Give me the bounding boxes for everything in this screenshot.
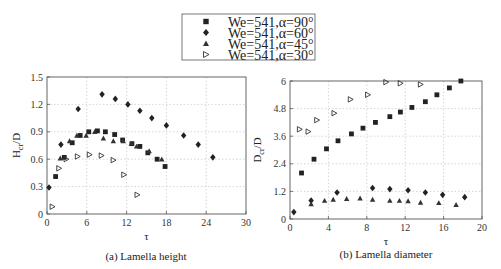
y-tick-label: 0 bbox=[38, 209, 43, 220]
y-tick-label: 0.6 bbox=[31, 154, 44, 165]
diamond-marker-icon bbox=[137, 107, 142, 114]
y-axis-label: Dcr/D bbox=[251, 137, 266, 162]
square-marker-icon bbox=[410, 105, 415, 110]
triangle-up-marker-icon bbox=[405, 198, 410, 203]
diamond-marker-icon bbox=[113, 96, 118, 103]
x-tick-label: 18 bbox=[161, 217, 171, 228]
triangle-up-marker-icon bbox=[344, 196, 349, 201]
triangle-right-marker-icon bbox=[418, 82, 423, 87]
triangle-right-marker-icon bbox=[315, 117, 320, 122]
x-tick-label: 30 bbox=[241, 217, 251, 228]
series-diamond bbox=[291, 185, 467, 216]
triangle-right-marker-icon bbox=[87, 152, 92, 157]
triangle-right-marker-icon bbox=[75, 154, 80, 159]
triangle-up-marker-icon bbox=[453, 202, 458, 207]
legend: We=541,α=90°We=541,α=60°We=541,α=45°We=5… bbox=[182, 14, 315, 63]
square-marker-icon bbox=[447, 86, 452, 91]
square-marker-icon bbox=[361, 126, 366, 131]
series-triangle-right bbox=[297, 79, 423, 134]
x-tick-label: 16 bbox=[439, 222, 449, 233]
x-tick-label: 8 bbox=[364, 222, 369, 233]
diamond-marker-icon bbox=[99, 91, 104, 98]
y-tick-label: 1.2 bbox=[274, 186, 287, 197]
diamond-marker-icon bbox=[75, 106, 80, 113]
triangle-right-marker-icon bbox=[57, 166, 62, 171]
plot-frame bbox=[290, 81, 482, 219]
diamond-marker-icon bbox=[291, 209, 296, 216]
triangle-right-marker-icon bbox=[306, 129, 311, 134]
triangle-right-marker-icon bbox=[122, 172, 127, 177]
triangle-right-marker-icon bbox=[297, 127, 302, 132]
triangle-up-marker-icon bbox=[357, 196, 362, 201]
x-tick-label: 6 bbox=[84, 217, 89, 228]
square-marker-icon bbox=[103, 129, 108, 134]
x-tick-label: 0 bbox=[45, 217, 50, 228]
triangle-up-marker-icon bbox=[397, 198, 402, 203]
diamond-marker-icon bbox=[440, 192, 445, 199]
y-tick-label: 6 bbox=[281, 76, 286, 87]
diamond-marker-icon bbox=[58, 141, 63, 148]
plot-lamella-height: 061218243000.30.60.91.21.5τHcr/D(a) Lame… bbox=[10, 72, 251, 264]
triangle-right-marker-icon bbox=[384, 79, 389, 84]
x-axis-label: τ bbox=[144, 230, 149, 242]
triangle-right-marker-icon bbox=[50, 204, 55, 209]
square-marker-icon bbox=[373, 120, 378, 125]
square-marker-icon bbox=[312, 157, 317, 162]
triangle-up-marker-icon bbox=[331, 197, 336, 202]
x-tick-label: 0 bbox=[288, 222, 293, 233]
y-tick-label: 0.9 bbox=[31, 126, 44, 137]
square-marker-icon bbox=[299, 171, 304, 176]
series-triangle-up bbox=[308, 196, 458, 207]
y-tick-label: 0.3 bbox=[31, 181, 44, 192]
series-triangle-up bbox=[58, 129, 165, 161]
square-marker-icon bbox=[53, 174, 58, 179]
square-marker-icon bbox=[112, 132, 117, 137]
plot-lamella-diameter: 04812162001.22.43.64.86τDcr/D(b) Lamella… bbox=[251, 76, 487, 262]
x-tick-label: 4 bbox=[326, 222, 331, 233]
diamond-marker-icon bbox=[164, 122, 169, 129]
triangle-up-marker-icon bbox=[111, 138, 116, 143]
square-marker-icon bbox=[155, 157, 160, 162]
x-tick-label: 24 bbox=[201, 217, 211, 228]
square-marker-icon bbox=[163, 164, 168, 169]
square-marker-icon bbox=[349, 132, 354, 137]
triangle-right-marker-icon bbox=[99, 153, 104, 158]
plot-caption: (b) Lamella diameter bbox=[340, 248, 433, 261]
series-square bbox=[53, 128, 167, 178]
diamond-marker-icon bbox=[334, 189, 339, 196]
y-tick-label: 3.6 bbox=[274, 131, 287, 142]
triangle-up-marker-icon bbox=[322, 198, 327, 203]
diamond-marker-icon bbox=[423, 189, 428, 196]
triangle-up-marker-icon bbox=[418, 200, 423, 205]
square-marker-icon bbox=[336, 138, 341, 143]
figure: We=541,α=90°We=541,α=60°We=541,α=45°We=5… bbox=[0, 0, 501, 269]
plot-caption: (a) Lamella height bbox=[105, 250, 186, 263]
y-axis-label: Hcr/D bbox=[10, 133, 25, 158]
y-tick-label: 1.5 bbox=[31, 72, 44, 83]
triangle-right-marker-icon bbox=[111, 157, 116, 162]
diamond-marker-icon bbox=[210, 154, 215, 161]
y-tick-label: 2.4 bbox=[274, 158, 287, 169]
y-tick-label: 0 bbox=[281, 214, 286, 225]
square-marker-icon bbox=[398, 110, 403, 115]
triangle-up-marker-icon bbox=[436, 200, 441, 205]
square-marker-icon bbox=[434, 92, 439, 97]
x-tick-label: 12 bbox=[400, 222, 410, 233]
triangle-right-marker-icon bbox=[135, 192, 140, 197]
legend-label: We=541,α=30° bbox=[228, 48, 314, 63]
square-marker-icon bbox=[86, 129, 91, 134]
square-marker-icon bbox=[423, 99, 428, 104]
diamond-marker-icon bbox=[370, 185, 375, 192]
diamond-marker-icon bbox=[196, 141, 201, 148]
plot-frame bbox=[47, 77, 246, 214]
square-marker-icon bbox=[203, 19, 208, 24]
triangle-up-marker-icon bbox=[387, 198, 392, 203]
x-tick-label: 12 bbox=[122, 217, 132, 228]
triangle-right-marker-icon bbox=[332, 111, 337, 116]
square-marker-icon bbox=[324, 146, 329, 151]
diamond-marker-icon bbox=[125, 101, 130, 108]
triangle-right-marker-icon bbox=[366, 92, 371, 97]
triangle-up-marker-icon bbox=[370, 197, 375, 202]
x-tick-label: 20 bbox=[477, 222, 487, 233]
square-marker-icon bbox=[387, 114, 392, 119]
